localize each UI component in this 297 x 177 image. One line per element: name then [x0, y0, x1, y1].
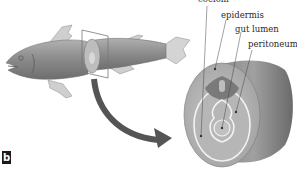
pelvic-fin	[48, 80, 72, 98]
label-peritoneum: peritoneum	[248, 40, 297, 49]
label-gut-lumen: gut lumen	[235, 25, 279, 34]
label-coelom: coelom	[198, 0, 229, 4]
fish-front-body	[6, 40, 88, 79]
panel-label-badge: b	[2, 151, 11, 164]
curved-arrow	[94, 79, 172, 148]
tail-fin	[163, 37, 190, 64]
fish-rear-body	[95, 38, 166, 70]
label-epidermis: epidermis	[221, 11, 264, 20]
